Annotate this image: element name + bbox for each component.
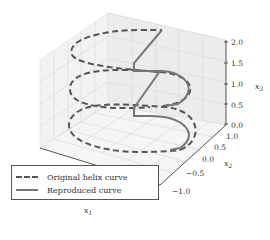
legend-label: Reproduced curve (47, 186, 121, 195)
y-tick: −1.0 (172, 187, 190, 196)
y-tick: −0.5 (186, 169, 204, 178)
y-tick: 0.0 (202, 155, 214, 164)
z-tick: 0.5 (231, 101, 243, 110)
dashed-line-icon (16, 176, 38, 178)
legend-item-reproduced: Reproduced curve (16, 184, 121, 196)
y-tick: 0.5 (214, 143, 226, 152)
z-tick: 1.0 (231, 80, 243, 89)
z-axis-label: x3 (255, 82, 264, 92)
z-axis: 2.0 1.5 1.0 0.5 0.0 x3 (224, 38, 264, 130)
legend-label: Original helix curve (47, 173, 127, 182)
y-tick: 1.0 (226, 132, 238, 141)
legend: Original helix curve Reproduced curve (11, 165, 159, 200)
x-axis-label: x1 (84, 206, 92, 216)
z-tick: 2.0 (231, 38, 243, 47)
z-tick: 1.5 (231, 59, 243, 68)
legend-item-original: Original helix curve (16, 171, 127, 183)
y-axis-label: x2 (224, 159, 233, 169)
solid-line-icon (16, 189, 38, 191)
z-tick: 0.0 (231, 121, 243, 130)
